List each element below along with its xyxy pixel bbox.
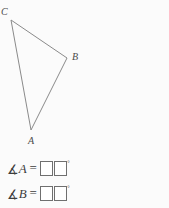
- angle-a-variable: A: [19, 162, 27, 175]
- vertex-label-a: A: [28, 136, 34, 146]
- vertex-label-c: C: [1, 7, 8, 17]
- degree-symbol-b: °: [67, 185, 70, 191]
- angle-symbol-icon: ∡: [7, 188, 19, 201]
- angle-a-ones-input[interactable]: [54, 161, 67, 176]
- angle-b-variable: B: [19, 187, 27, 200]
- angle-a-input-group: °: [40, 161, 70, 176]
- angle-b-equals-sign: =: [30, 185, 37, 201]
- triangle-shape: [11, 20, 67, 130]
- angle-b-input-group: °: [40, 186, 70, 201]
- angle-b-expression: ∡B: [7, 187, 27, 200]
- angle-symbol-icon: ∡: [7, 163, 19, 176]
- angle-b-tens-input[interactable]: [40, 186, 53, 201]
- geometry-worksheet: C B A ∡A = ° ∡B = °: [0, 0, 169, 208]
- triangle-figure: C B A: [0, 0, 169, 152]
- vertex-label-b: B: [72, 52, 78, 62]
- degree-symbol-a: °: [67, 160, 70, 166]
- angle-a-expression: ∡A: [7, 162, 27, 175]
- angle-a-equals-sign: =: [30, 160, 37, 176]
- angle-a-tens-input[interactable]: [40, 161, 53, 176]
- answer-row-angle-a: ∡A = °: [7, 159, 70, 177]
- answer-row-angle-b: ∡B = °: [7, 184, 70, 202]
- angle-b-ones-input[interactable]: [54, 186, 67, 201]
- triangle-diagram: [0, 0, 169, 152]
